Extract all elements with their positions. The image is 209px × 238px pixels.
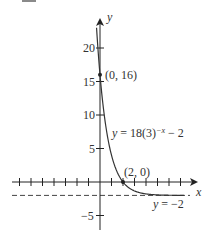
- x-axis-label: x: [195, 185, 202, 199]
- y-tick-label-neg5: −5: [81, 209, 94, 223]
- equation-label: y = 18(3)−x − 2: [111, 126, 184, 140]
- y-axis-label: y: [106, 10, 113, 24]
- y-tick-label-20: 20: [83, 41, 95, 55]
- asymptote-label: y = −2: [152, 197, 184, 211]
- point-label-x-intercept: (2, 0): [124, 165, 150, 179]
- exponential-graph: y x 20 15 10 5 −5 (0, 16) (2, 0) y = 18(…: [0, 0, 209, 238]
- point-label-y-intercept: (0, 16): [105, 68, 137, 82]
- y-tick-label-10: 10: [83, 108, 95, 122]
- point-x-intercept: [121, 180, 125, 184]
- y-tick-label-15: 15: [83, 75, 95, 89]
- y-tick-label-5: 5: [89, 142, 95, 156]
- point-y-intercept: [98, 73, 102, 77]
